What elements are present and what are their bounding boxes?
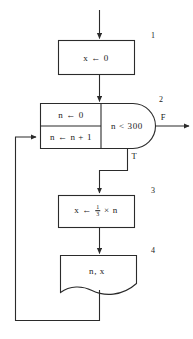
decision-2-text: n < 300 xyxy=(111,122,143,131)
output-4-step-label: 4 xyxy=(151,247,155,255)
process-1-step-label: 1 xyxy=(151,32,155,40)
flowchart-canvas: x ← 0 1 n ← 0 n ← n + 1 n < 300 2 F T x … xyxy=(0,0,193,339)
fraction-numerator: 1 xyxy=(96,204,101,211)
output-4-text: n, x xyxy=(89,267,105,276)
process-3-text-prefix: x ← xyxy=(74,205,94,215)
one-third-fraction: 13 xyxy=(96,204,101,218)
false-branch-label: F xyxy=(161,113,166,122)
feedback-loop-path xyxy=(16,137,100,321)
true-branch-path xyxy=(100,149,128,194)
flowchart-graphics xyxy=(0,0,193,339)
process-1-text: x ← 0 xyxy=(83,54,109,63)
fraction-denominator: 3 xyxy=(96,211,101,217)
loop-increment-text: n ← n + 1 xyxy=(50,133,92,142)
process-3-text: x ← 13 × n xyxy=(74,204,118,218)
true-branch-label: T xyxy=(131,152,136,161)
loop-init-text: n ← 0 xyxy=(58,111,84,120)
process-3-step-label: 3 xyxy=(151,187,155,195)
process-3-text-suffix: × n xyxy=(101,205,117,215)
decision-2-step-label: 2 xyxy=(159,96,163,104)
